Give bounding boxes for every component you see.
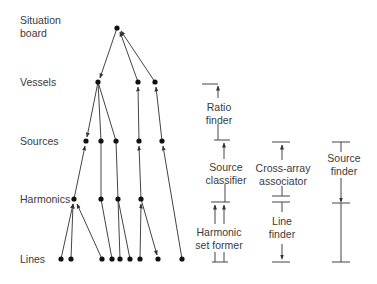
- process-label-line: Cross-array: [256, 162, 311, 175]
- process-label-line: finder: [269, 228, 295, 241]
- process-line-finder: Line finder: [269, 215, 295, 241]
- process-source-classifier: Source classifier: [206, 161, 247, 187]
- process-ratio-finder: Ratio finder: [206, 101, 232, 127]
- tree-edges: [61, 28, 182, 259]
- process-label-line: Source: [327, 152, 360, 165]
- process-harmonic-set-former: Harmonic set former: [195, 226, 242, 252]
- hierarchy-tree: [0, 0, 377, 284]
- process-label-line: classifier: [206, 174, 247, 187]
- process-label-line: set former: [195, 239, 242, 252]
- process-label-line: Harmonic: [195, 226, 242, 239]
- tree-nodes: [58, 25, 184, 261]
- process-label-line: finder: [327, 165, 360, 178]
- process-label-line: finder: [206, 114, 232, 127]
- process-label-line: Source: [206, 161, 247, 174]
- process-source-finder: Source finder: [327, 152, 360, 178]
- process-label-line: associator: [256, 175, 311, 188]
- process-label-line: Ratio: [206, 101, 232, 114]
- process-cross-array-associator: Cross-array associator: [256, 162, 311, 188]
- process-label-line: Line: [269, 215, 295, 228]
